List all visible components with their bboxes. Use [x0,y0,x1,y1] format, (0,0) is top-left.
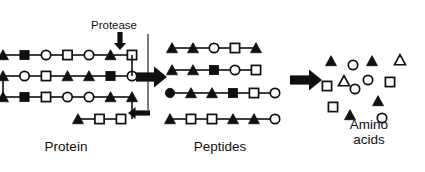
open-circle [270,114,279,123]
transition-arrow-head [309,70,322,91]
filled-square [228,88,237,97]
amino-acid-1 [326,56,337,66]
open-square [385,77,394,86]
amino-acid-9 [350,84,359,93]
open-square [116,114,125,123]
open-circle [63,92,72,101]
open-square [328,102,337,111]
filled-square [106,71,115,80]
protein-chain [0,50,138,124]
filled-triangle [373,96,384,106]
peptides-group [165,43,280,124]
open-circle [270,88,279,97]
open-square [249,88,258,97]
open-square [63,50,72,59]
amino-acid-6 [339,76,350,86]
open-square [41,71,50,80]
protein-chain-row-2 [0,71,137,81]
filled-triangle [326,56,337,66]
open-circle [41,50,50,59]
protein-chain-row-1 [0,50,137,60]
amino-acid-11 [373,96,384,106]
protease-arrow-head [114,43,126,50]
protease-arrow-shaft [117,32,122,44]
stage-label-peptides: Peptides [172,139,268,154]
amino-acid-10 [328,102,337,111]
open-circle [20,71,29,80]
filled-square [209,65,218,74]
transition-arrow-shaft [290,75,310,84]
amino-acid-5 [322,81,331,90]
stage-label-amino-acids: Amino acids [330,117,408,147]
peptide-chain-1 [167,43,262,53]
transition-arrow-shaft [136,72,155,81]
stage-label-protein: Protein [6,139,126,154]
transition-arrow-head [154,67,167,88]
open-circle [363,75,372,84]
amino-acid-3 [367,56,378,66]
open-triangle [395,55,406,65]
open-circle [348,60,357,69]
open-circle [350,84,359,93]
open-square [207,114,216,123]
open-square [322,81,331,90]
open-square [230,43,239,52]
amino-acids-group [322,55,405,123]
protease-arrow-down [114,32,126,50]
open-circle [84,50,93,59]
peptides-to-amino-arrow [290,70,322,91]
open-square [186,114,195,123]
protein-digestion-diagram: Protein Peptides Amino acids Protease [0,0,425,172]
open-square [95,114,104,123]
protein-to-peptides-arrow [136,67,167,88]
protein-chain-row-3 [0,92,138,102]
filled-triangle [367,56,378,66]
filled-circle [165,88,174,97]
amino-acid-7 [363,75,372,84]
peptide-chain-2 [167,65,261,75]
open-square [251,65,260,74]
amino-acid-4 [395,55,406,65]
protein-chain-row-4 [73,114,126,124]
amino-acid-2 [348,60,357,69]
open-square [41,92,50,101]
peptide-chain-3 [165,88,279,98]
peptide-chain-4 [165,114,280,124]
open-circle [84,92,93,101]
open-circle [209,43,218,52]
cleavage-arrow-shaft [135,110,151,115]
filled-square [20,50,29,59]
open-triangle [339,76,350,86]
open-circle [230,65,239,74]
amino-acid-8 [385,77,394,86]
filled-square [20,92,29,101]
protease-annotation-label: Protease [80,19,148,31]
